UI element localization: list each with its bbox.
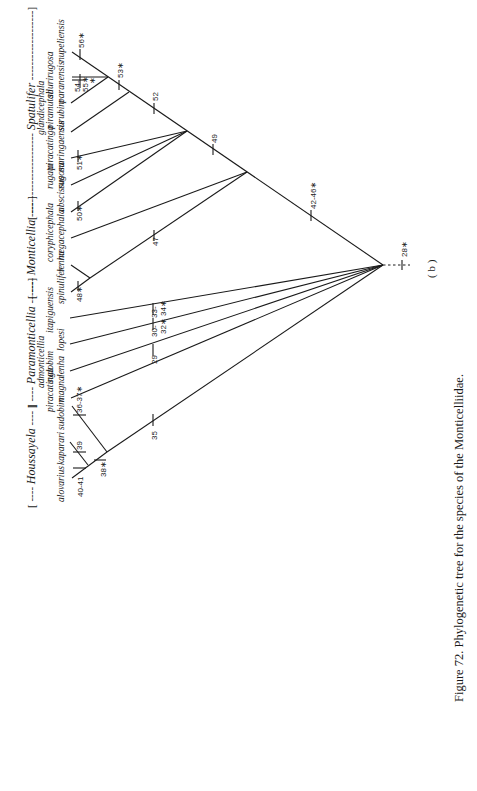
char-56: 56∗ — [77, 32, 86, 48]
char-55-star: ∗ — [88, 77, 97, 84]
taxon-siluri-1: siluri — [45, 78, 55, 98]
char-32: 32∗ — [159, 318, 168, 334]
taxon-labels: alovarius kaparari sudobim piracatinga m… — [36, 19, 66, 502]
char-51: 51∗ — [75, 154, 84, 170]
char-48: 48∗ — [75, 286, 84, 302]
taxon-itapiguensis: itapiguensis — [45, 287, 55, 333]
branch-rugata — [71, 131, 187, 185]
char-38: 38∗ — [99, 461, 108, 477]
svg-text:[ ---------------------- Spatu: [ ---------------------- Spatulifer ----… — [24, 7, 38, 220]
char-53: 53∗ — [116, 62, 125, 78]
char-40-41: 40-41 — [76, 476, 85, 497]
char-33: 33- — [150, 306, 159, 318]
panel-label: ( b ) — [425, 259, 438, 278]
char-35: 35 — [150, 431, 159, 440]
taxon-alovarius: alovarius — [56, 466, 66, 502]
char-39: 39 — [75, 441, 84, 450]
taxon-admonticellia-2: sudobim — [45, 351, 55, 383]
taxon-rugosa: rugosa — [45, 51, 55, 78]
taxon-admonticellia-3: lenha — [56, 356, 66, 377]
char-34: 34∗ — [159, 300, 168, 316]
phylogenetic-tree-figure: 40-41 39 38∗ 36-37∗ 35 29 30- 32∗ 33- 34… — [0, 0, 477, 791]
branch-admonticellia — [70, 265, 383, 371]
genus-spatulifer: [ ---------------------- Spatulifer ----… — [24, 7, 38, 220]
branch-glandicephala — [71, 92, 129, 132]
char-28-root: 28∗ — [400, 241, 409, 257]
svg-text:[ ---- Houssayela ---- ]: [ ---- Houssayela ---- ] — [24, 404, 38, 508]
char-47: 47 — [151, 237, 160, 246]
char-42-46: 42-46∗ — [309, 182, 318, 209]
taxon-glandicephala-3: surubim — [56, 100, 66, 131]
taxon-piracatinga-magna-2: magna — [56, 376, 66, 402]
branch-itapiguensis — [70, 265, 383, 318]
figure-caption: Figure 72. Phylogenetic tree for the spe… — [452, 374, 466, 702]
taxon-piracatinga-1: piracatinga — [45, 125, 55, 171]
branch-lenha — [71, 265, 90, 278]
branch-houssayela — [107, 265, 383, 452]
taxon-siluri-2: paranensis — [56, 61, 66, 104]
taxon-lopesi: lopesi — [56, 328, 66, 351]
branch-coryphicephala — [71, 172, 247, 238]
taxon-coryphicephala-1: coryphicephala — [45, 203, 55, 262]
char-29: 29 — [150, 355, 159, 364]
taxon-kaparari: kaparari — [56, 431, 66, 465]
char-49: 49 — [210, 134, 219, 143]
tree-branches — [70, 52, 410, 478]
genus-brackets: [ ---- Houssayela ---- ] [ ---- Paramont… — [24, 7, 38, 508]
taxon-coryphicephala-2: megacephala — [56, 209, 66, 260]
branch-monticellia — [90, 172, 247, 278]
char-36-37: 36-37∗ — [75, 386, 84, 413]
character-labels: 40-41 39 38∗ 36-37∗ 35 29 30- 32∗ 33- 34… — [73, 32, 409, 497]
taxon-nupeliensis: nupeliensis — [56, 19, 66, 62]
branch-piracatinga-mar — [71, 131, 187, 158]
branch-abscissus — [71, 131, 187, 212]
character-ticks — [72, 49, 402, 468]
char-50: 50∗ — [75, 205, 84, 221]
char-30: 30- — [150, 325, 159, 337]
char-52: 52 — [151, 92, 160, 101]
genus-houssayela: [ ---- Houssayela ---- ] — [24, 404, 38, 508]
